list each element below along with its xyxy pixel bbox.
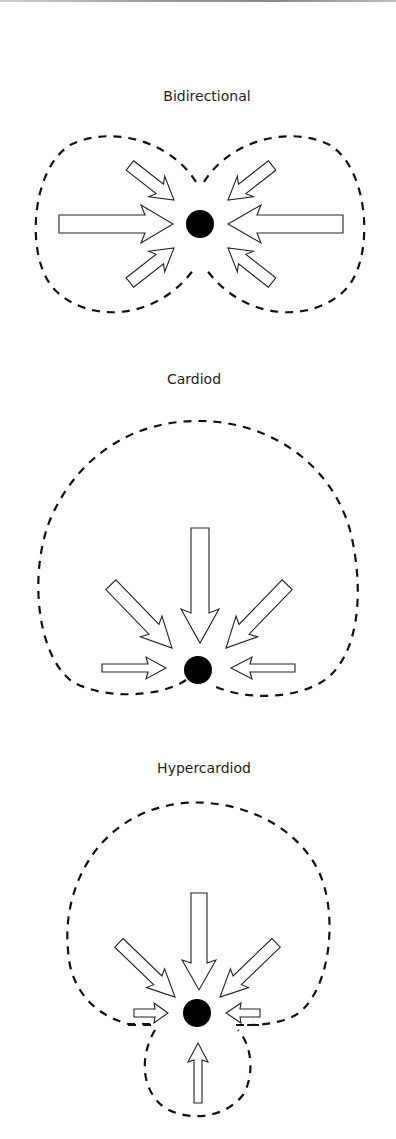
arrow-right-icon xyxy=(59,205,173,243)
arrow-right-icon xyxy=(134,1003,168,1023)
arrow-diagonal-icon xyxy=(211,933,285,1006)
arrow-diagonal-icon xyxy=(100,574,183,658)
microphone-dot xyxy=(184,656,212,684)
microphone-dot xyxy=(186,210,214,238)
panel-title: Cardiod xyxy=(167,371,221,387)
arrow-left-icon xyxy=(226,1003,260,1023)
arrow-up-icon xyxy=(188,1043,208,1103)
arrow-right-icon xyxy=(102,657,166,679)
arrow-diagonal-icon xyxy=(215,574,298,658)
panel-cardiod: Cardiod xyxy=(38,371,357,696)
microphone-dot xyxy=(183,999,211,1027)
panel-title: Hypercardiod xyxy=(157,760,251,776)
panel-bidirectional: Bidirectional xyxy=(36,88,365,312)
arrow-diagonal-icon xyxy=(220,155,280,210)
panel-hypercardiod: Hypercardiod xyxy=(67,760,329,1116)
arrow-down-icon xyxy=(182,893,216,990)
arrow-down-icon xyxy=(181,528,219,643)
polar-pattern-diagram: Bidirectional Cardiod xyxy=(0,0,396,1139)
arrow-diagonal-icon xyxy=(122,238,182,293)
arrow-left-icon xyxy=(228,205,343,243)
arrow-diagonal-icon xyxy=(220,238,280,293)
arrow-left-icon xyxy=(231,657,295,679)
arrow-diagonal-icon xyxy=(110,933,184,1006)
arrow-diagonal-icon xyxy=(122,155,182,210)
panel-title: Bidirectional xyxy=(163,88,250,104)
